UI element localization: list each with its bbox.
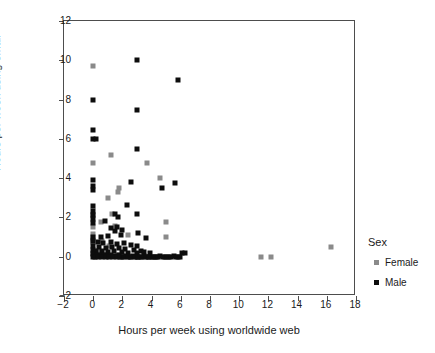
x-axis-tick-label: 4: [148, 299, 154, 310]
y-axis-tick-label: 12: [60, 15, 71, 26]
data-point: [178, 254, 183, 259]
data-point: [175, 77, 180, 82]
legend-swatch-icon: [374, 280, 379, 285]
data-point: [108, 152, 113, 157]
x-axis-tick-label: 8: [206, 299, 212, 310]
data-point: [259, 254, 264, 259]
data-point: [124, 202, 129, 207]
y-axis-tick: [59, 257, 64, 258]
x-axis-title: Hours per week using worldwide web: [63, 324, 355, 336]
data-point: [126, 233, 131, 238]
data-point: [91, 64, 96, 69]
data-point: [121, 240, 126, 245]
x-axis-tick-label: −2: [57, 299, 68, 310]
y-axis-title: Hours per week using email: [0, 155, 2, 171]
data-point: [118, 233, 123, 238]
data-point: [164, 235, 169, 240]
x-axis-tick-label: 6: [177, 299, 183, 310]
data-point: [143, 236, 148, 241]
data-point: [94, 136, 99, 141]
y-axis-tick: [59, 139, 64, 140]
data-point: [113, 229, 118, 234]
y-axis-tick-label: 2: [65, 211, 71, 222]
data-point: [135, 108, 140, 113]
data-point: [269, 254, 274, 259]
data-point: [91, 97, 96, 102]
data-point: [172, 181, 177, 186]
legend-item-female[interactable]: Female: [368, 257, 434, 268]
data-point: [135, 58, 140, 63]
plot-area: [63, 20, 355, 295]
y-axis-tick-label: 10: [60, 54, 71, 65]
y-axis-tick: [59, 100, 64, 101]
data-point: [159, 185, 164, 190]
data-point: [135, 211, 140, 216]
x-axis-tick-label: 16: [320, 299, 331, 310]
x-axis-tick-label: 18: [349, 299, 360, 310]
scatter-plot-figure: Hours per week using email Hours per wee…: [0, 0, 435, 353]
y-axis-tick-label: 0: [65, 250, 71, 261]
y-axis-tick-label: 6: [65, 132, 71, 143]
data-point: [145, 161, 150, 166]
data-points-layer: [64, 21, 354, 294]
data-point: [183, 250, 188, 255]
data-point: [91, 161, 96, 166]
data-point: [91, 187, 96, 192]
data-point: [116, 215, 121, 220]
data-point: [135, 146, 140, 151]
data-point: [91, 128, 96, 133]
y-axis-tick: [59, 178, 64, 179]
data-point: [329, 244, 334, 249]
y-axis-tick: [59, 217, 64, 218]
x-axis-tick-label: 10: [233, 299, 244, 310]
data-point: [105, 195, 110, 200]
y-axis-tick-label: 8: [65, 93, 71, 104]
legend: Sex FemaleMale: [368, 236, 434, 297]
data-point: [91, 221, 96, 226]
data-point: [136, 231, 141, 236]
data-point: [129, 180, 134, 185]
data-point: [158, 176, 163, 181]
data-point: [164, 220, 169, 225]
data-point: [102, 219, 107, 224]
legend-item-label: Male: [385, 277, 407, 288]
data-point: [116, 185, 121, 190]
x-axis-tick-label: 2: [119, 299, 125, 310]
y-axis-tick-label: 4: [65, 172, 71, 183]
legend-title: Sex: [368, 236, 434, 248]
legend-item-male[interactable]: Male: [368, 277, 434, 288]
x-axis-tick-label: 14: [291, 299, 302, 310]
x-axis-tick-label: 12: [262, 299, 273, 310]
x-axis-tick-label: 0: [89, 299, 95, 310]
legend-entries: FemaleMale: [368, 257, 434, 288]
data-point: [91, 178, 96, 183]
legend-item-label: Female: [385, 257, 418, 268]
legend-swatch-icon: [374, 260, 379, 265]
data-point: [105, 234, 110, 239]
